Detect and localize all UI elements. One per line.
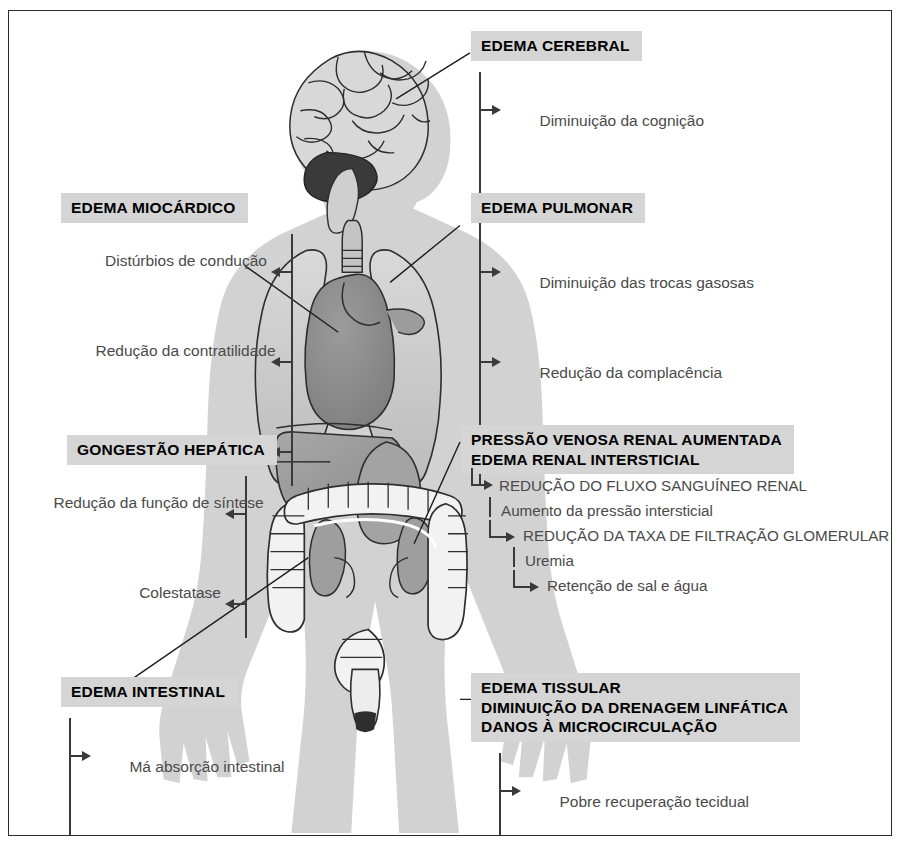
trachea	[342, 220, 362, 272]
list-gongestao-hepatica: Redução da função de síntese Colestatase	[19, 469, 255, 649]
list-item: Redução da complacência	[505, 317, 764, 407]
chain-row: Uremia	[461, 551, 794, 576]
list-item-label: Diminuição das trocas gasosas	[539, 274, 754, 291]
list-item-label: Colestatase	[139, 584, 221, 601]
chain-label: Retenção de sal e água	[547, 577, 707, 594]
list-stem	[499, 753, 501, 837]
arrow-right-icon	[479, 271, 499, 273]
arrow-right-icon	[69, 755, 89, 757]
heading-edema-intestinal: EDEMA INTESTINAL	[61, 677, 237, 707]
list-item: Colestatase	[19, 559, 221, 649]
list-item: Diminuição das trocas gasosas	[505, 227, 764, 317]
arrow-right-icon	[479, 361, 499, 363]
list-item: Redução da contratilidade	[61, 317, 267, 407]
arrow-left-icon	[273, 271, 293, 273]
arrow-right-icon	[479, 109, 499, 111]
heading-line-3: DANOS À MICROCIRCULAÇÃO	[481, 718, 717, 735]
block-gongestao-hepatica: GONGESTÃO HEPÁTICA Redução da função de …	[19, 435, 255, 649]
chain-renal: REDUÇÃO DO FLUXO SANGUÍNEO RENAL Aumento…	[461, 476, 794, 601]
list-item: Redução da função de síntese	[19, 469, 221, 559]
heart	[305, 274, 394, 429]
arrow-left-icon	[227, 603, 247, 605]
chain-label: Uremia	[525, 552, 574, 569]
list-item-label: Redução da complacência	[539, 364, 722, 381]
heading-pressao-venosa-renal: PRESSÃO VENOSA RENAL AUMENTADAEDEMA RENA…	[461, 425, 794, 474]
heading-line-2: DIMINUIÇÃO DA DRENAGEM LINFÁTICA	[481, 699, 788, 716]
list-stem	[69, 718, 71, 836]
chain-row: REDUÇÃO DA TAXA DE FILTRAÇÃO GLOMERULAR	[461, 526, 794, 551]
list-item-label: Diminuição da cognição	[539, 112, 704, 129]
chain-row: Retenção de sal e água	[461, 576, 794, 601]
chain-row: Aumento da pressão intersticial	[461, 501, 794, 526]
list-item-label: Redução da função de síntese	[53, 494, 263, 511]
chain-label: REDUÇÃO DA TAXA DE FILTRAÇÃO GLOMERULAR	[523, 527, 889, 544]
list-item-label: Pobre recuperação tecidual	[559, 793, 749, 810]
list-item: Pobre recuperação tecidual	[525, 746, 800, 836]
heading-edema-miocardico: EDEMA MIOCÁRDICO	[61, 193, 248, 223]
block-edema-intestinal: EDEMA INTESTINAL Má absorção intestinal …	[61, 677, 285, 836]
list-edema-intestinal: Má absorção intestinal Íleo adinâmico	[61, 711, 285, 836]
heading-edema-pulmonar: EDEMA PULMONAR	[471, 193, 645, 223]
list-edema-tissular: Pobre recuperação tecidual Predisposição…	[491, 746, 800, 837]
list-item: Íleo adinâmico	[95, 801, 285, 836]
heading-line-1: PRESSÃO VENOSA RENAL AUMENTADA	[471, 431, 782, 448]
chain-row: REDUÇÃO DO FLUXO SANGUÍNEO RENAL	[461, 476, 794, 501]
list-item-label: Distúrbios de condução	[105, 252, 267, 269]
list-item: Má absorção intestinal	[95, 711, 285, 801]
list-item: Diminuição da cognição	[505, 65, 704, 155]
chain-label: REDUÇÃO DO FLUXO SANGUÍNEO RENAL	[499, 477, 807, 494]
arrow-left-icon	[273, 361, 293, 363]
heading-line-2: EDEMA RENAL INTERSTICIAL	[471, 451, 700, 468]
chain-label: Aumento da pressão intersticial	[501, 502, 713, 519]
heading-gongestao-hepatica: GONGESTÃO HEPÁTICA	[67, 435, 277, 465]
figure-frame: EDEMA CEREBRAL Diminuição da cognição De…	[8, 10, 892, 836]
list-item: Predisposição a infecções	[525, 836, 800, 837]
block-edema-tissular: EDEMA TISSULARDIMINUIÇÃO DA DRENAGEM LIN…	[471, 673, 800, 836]
heading-line-1: EDEMA TISSULAR	[481, 679, 621, 696]
block-pressao-venosa-renal: PRESSÃO VENOSA RENAL AUMENTADAEDEMA RENA…	[461, 425, 794, 601]
list-item: Distúrbios de condução	[61, 227, 267, 317]
heading-edema-cerebral: EDEMA CEREBRAL	[471, 31, 642, 61]
arrow-left-icon	[227, 513, 247, 515]
arrow-right-icon	[499, 790, 519, 792]
list-item-label: Má absorção intestinal	[129, 758, 284, 775]
list-item-label: Redução da contratilidade	[95, 342, 275, 359]
heading-edema-tissular: EDEMA TISSULARDIMINUIÇÃO DA DRENAGEM LIN…	[471, 673, 800, 742]
